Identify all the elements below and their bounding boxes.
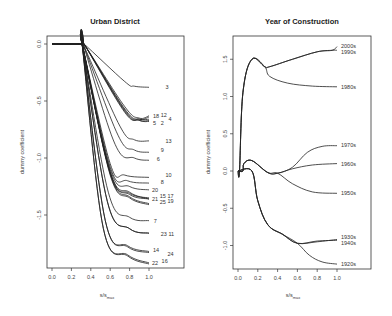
series-line <box>52 39 149 119</box>
panel-title: Year of Construction <box>265 17 339 26</box>
series-line <box>238 169 337 244</box>
y-tick-label: 1.0 <box>222 93 228 101</box>
series-line <box>238 169 337 265</box>
y-axis-label: dummy coefficient <box>19 129 25 174</box>
series-label: 3 <box>165 84 168 90</box>
series-label: 16 <box>162 258 168 264</box>
series-label: 1920s <box>341 261 356 267</box>
series-label: 1960s <box>341 161 356 167</box>
series-label: 20 <box>152 187 158 193</box>
panel-urban-district: Urban District 0.0-0.5-1.0-1.5 0.00.20.4… <box>19 17 184 300</box>
y-tick-label: 0.0 <box>222 167 228 175</box>
y-axis-label: dummy coefficient <box>205 129 211 174</box>
x-tick-label: 0.4 <box>87 274 95 280</box>
series-label: 8 <box>161 179 164 185</box>
x-axis-label: s/smax <box>286 292 301 300</box>
y-tick-label: 1.5 <box>222 55 228 63</box>
y-tick-label: -0.5 <box>222 204 228 213</box>
series-label: 1970s <box>341 142 356 148</box>
series-label: 19 <box>167 198 173 204</box>
series-label: 23 <box>161 231 167 237</box>
series-line <box>238 169 337 244</box>
series-label: 4 <box>168 116 171 122</box>
x-tick-label: 0.8 <box>126 274 134 280</box>
x-tick-label: 1.0 <box>333 275 341 281</box>
series-label: 15 <box>160 193 166 199</box>
series-label: 13 <box>165 138 171 144</box>
series-line <box>52 29 149 263</box>
series-line <box>52 39 149 122</box>
series-label: 2 <box>161 120 164 126</box>
series-line <box>52 34 149 199</box>
series-label: 22 <box>152 260 158 266</box>
y-tick-label: -0.5 <box>36 96 42 105</box>
coefficient-paths <box>52 29 149 264</box>
series-label: 12 <box>161 112 167 118</box>
series-label: 10 <box>165 172 171 178</box>
series-label: 21 <box>152 196 158 202</box>
y-tick-label: 0.0 <box>36 40 42 48</box>
series-line <box>52 39 149 121</box>
x-tick-label: 1.0 <box>145 274 153 280</box>
series-line <box>238 50 337 177</box>
panel-title: Urban District <box>90 17 140 26</box>
series-line <box>52 39 149 121</box>
y-tick-label: -1.0 <box>36 153 42 162</box>
series-label: 14 <box>153 247 159 253</box>
y-axis: 1.51.00.50.0-0.5-1.0 <box>222 55 233 250</box>
y-tick-label: -1.0 <box>222 241 228 250</box>
series-line <box>52 39 149 120</box>
series-label: 18 <box>153 113 159 119</box>
series-line <box>52 36 149 160</box>
x-axis: 0.00.20.40.60.81.0 <box>234 269 341 281</box>
series-labels: 2000s1990s1980s1970s1960s1950s1930s1940s… <box>341 43 356 267</box>
series-line <box>52 34 149 198</box>
series-label: 6 <box>157 156 160 162</box>
series-label: 1990s <box>341 49 356 55</box>
series-label: 7 <box>154 218 157 224</box>
series-label: 1940s <box>341 240 356 246</box>
series-label: 5 <box>153 120 156 126</box>
x-tick-label: 0.8 <box>313 275 321 281</box>
series-label: 11 <box>168 231 174 237</box>
panel-year-of-construction: Year of Construction 1.51.00.50.0-0.5-1.… <box>205 17 371 300</box>
x-tick-label: 0.2 <box>68 274 76 280</box>
y-tick-label: -1.5 <box>36 210 42 219</box>
x-tick-label: 0.6 <box>106 274 114 280</box>
x-axis-label: s/smax <box>100 292 115 300</box>
series-label: 1980s <box>341 84 356 90</box>
figure: Urban District 0.0-0.5-1.0-1.5 0.00.20.4… <box>0 0 392 316</box>
x-tick-label: 0.6 <box>294 275 302 281</box>
x-tick-label: 0.0 <box>48 274 56 280</box>
series-line <box>52 34 149 183</box>
series-line <box>238 160 337 174</box>
series-line <box>238 58 337 177</box>
y-tick-label: 0.5 <box>222 130 228 138</box>
series-line <box>52 41 149 87</box>
series-line <box>52 29 149 264</box>
x-tick-label: 0.0 <box>234 275 242 281</box>
series-line <box>238 47 337 178</box>
series-label: 24 <box>167 251 173 257</box>
x-tick-label: 0.4 <box>274 275 282 281</box>
series-labels: 3181252413961082021151725197231114242216 <box>152 84 174 266</box>
series-label: 1950s <box>341 190 356 196</box>
x-axis: 0.00.20.40.60.81.0 <box>48 268 153 280</box>
series-label: 9 <box>161 147 164 153</box>
series-line <box>52 34 149 199</box>
series-line <box>238 160 337 193</box>
coefficient-paths <box>238 47 337 265</box>
series-label: 25 <box>160 199 166 205</box>
y-axis: 0.0-0.5-1.0-1.5 <box>36 40 47 220</box>
series-line <box>52 30 149 252</box>
x-tick-label: 0.2 <box>254 275 262 281</box>
